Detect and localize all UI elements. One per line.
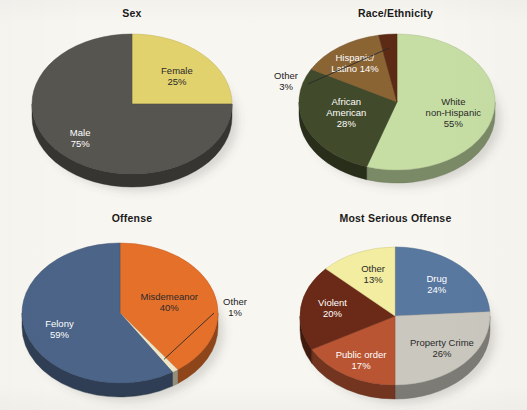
slice-label-text: Other	[361, 263, 385, 274]
slice-label-text: 20%	[323, 308, 343, 319]
callout-label-text: Other	[274, 70, 298, 81]
slice-label-text: 17%	[352, 360, 372, 371]
slice-label-text: Property Crime	[410, 337, 474, 348]
chart-title-most-serious-offense: Most Serious Offense	[264, 212, 527, 224]
slice-label-text: Public order	[336, 349, 387, 360]
chart-title-sex: Sex	[0, 7, 264, 19]
pie-chart-sex: Female25%Male75%	[0, 0, 264, 205]
slice-label-text: non-Hispanic	[426, 107, 482, 118]
slice-label-text: African	[332, 96, 362, 107]
chart-cell-sex: Sex Female25%Male75%	[0, 0, 264, 205]
chart-cell-most-serious-offense: Most Serious Offense Drug24%Property Cri…	[264, 205, 527, 410]
slice-label-text: White	[441, 96, 465, 107]
pie-chart-most-serious-offense: Drug24%Property Crime26%Public order17%V…	[264, 205, 527, 410]
slice-label-text: Misdemeanor	[140, 291, 198, 302]
pie-chart-race-ethnicity: Whitenon-Hispanic55%AfricanAmerican28%Hi…	[264, 0, 527, 205]
slice-label-text: Female	[161, 65, 193, 76]
callout-label-text: 3%	[279, 81, 293, 92]
slice-label-text: Violent	[318, 297, 347, 308]
pie-wall-segment	[173, 370, 178, 386]
callout-label-text: 1%	[228, 307, 242, 318]
slice-label-text: 25%	[167, 76, 187, 87]
slice-label-text: 26%	[432, 348, 452, 359]
slice-label-text: 40%	[160, 302, 180, 313]
pie-top-face	[22, 243, 218, 383]
slice-label-text: 13%	[364, 274, 384, 285]
slice-label-text: 59%	[50, 329, 70, 340]
slice-label-text: Felony	[45, 318, 74, 329]
slice-label-text: 55%	[444, 118, 464, 129]
pie-chart-offense: Misdemeanor40%Other1%Felony59%	[0, 205, 264, 410]
chart-title-offense: Offense	[0, 212, 264, 224]
slice-label-text: Male	[70, 127, 91, 138]
chart-title-race-ethnicity: Race/Ethnicity	[264, 7, 527, 19]
slice-label-text: American	[326, 107, 366, 118]
callout-label-text: Other	[223, 296, 247, 307]
slice-label-text: Drug	[426, 273, 447, 284]
chart-cell-race-ethnicity: Race/Ethnicity Whitenon-Hispanic55%Afric…	[264, 0, 527, 205]
pie-top-face	[32, 34, 232, 174]
slice-label-text: 28%	[337, 118, 357, 129]
chart-cell-offense: Offense Misdemeanor40%Other1%Felony59%	[0, 205, 264, 410]
slice-label-text: Latino 14%	[331, 63, 379, 74]
slice-label-text: 24%	[427, 284, 447, 295]
pie-chart-grid: Sex Female25%Male75% Race/Ethnicity Whit…	[0, 0, 527, 410]
pie-top-face	[299, 34, 495, 170]
slice-label-text: 75%	[71, 138, 91, 149]
